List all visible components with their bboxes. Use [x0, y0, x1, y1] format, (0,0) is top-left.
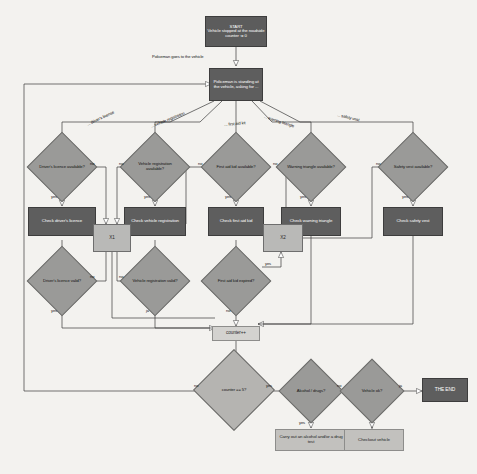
node-policeman[interactable]: Policeman is standing at the vehicle, as…	[209, 68, 263, 101]
decision-triangle-available-label: Warning triangle available?	[287, 165, 336, 170]
edge-label-no-licence-available: no	[90, 161, 94, 166]
decision-triangle-available[interactable]: Warning triangle available?	[286, 142, 336, 192]
edge-label-no-licence-valid: no	[90, 274, 94, 279]
process-check-firstaid-label: Check first aid kid	[220, 219, 253, 224]
edge-label-no-vehicle-ok: ja	[399, 383, 402, 388]
decision-vehicle-ok[interactable]: Vehicle ok?	[349, 368, 395, 414]
decision-registration-valid-label: Vehicle registration valid?	[131, 279, 180, 284]
edge-label-goes-to-vehicle: Policeman goes to the vehicle	[152, 54, 204, 59]
edge-label-no-alcohol: no	[337, 383, 341, 388]
decision-vehicle-ok-label: Vehicle ok?	[349, 389, 394, 394]
edge-label-yes-counter: yes	[266, 383, 272, 388]
edge-label-yes-alcohol: yes	[299, 420, 305, 425]
decision-registration-available[interactable]: Vehicle registration available?	[130, 142, 180, 192]
process-check-licence-label: Check driver's licence	[42, 219, 82, 224]
decision-counter-equals-5[interactable]: counter == 5?	[205, 361, 263, 419]
node-end[interactable]: THE END	[422, 378, 468, 402]
decision-licence-valid[interactable]: Driver's licence valid?	[37, 256, 87, 306]
edge-label-no-registration-valid: no	[119, 274, 123, 279]
edge-label-yes-vest-available: yes	[402, 194, 408, 199]
process-checkout-vehicle-label: Checkout vehicle	[358, 438, 390, 443]
process-counter-increment[interactable]: counter++	[212, 326, 260, 341]
process-check-registration[interactable]: Check vehicle registration	[124, 207, 186, 236]
edge-label-no-triangle-available: no	[273, 161, 277, 166]
node-start[interactable]: START Vehicle stopped at the roadside co…	[205, 16, 267, 47]
decision-firstaid-available[interactable]: First aid kid available?	[211, 142, 261, 192]
node-start-label: START Vehicle stopped at the roadside co…	[208, 25, 265, 39]
decision-licence-available[interactable]: Driver's licence available?	[37, 142, 87, 192]
decision-registration-valid[interactable]: Vehicle registration valid?	[130, 256, 180, 306]
edge-label-no-firstaid-available: no	[198, 161, 202, 166]
edge-label-ja-registration-valid: ja	[146, 308, 149, 313]
edge-label-yes-licence-available: yes	[51, 194, 57, 199]
decision-licence-available-label: Driver's licence available?	[38, 165, 87, 170]
process-checkout-vehicle[interactable]: Checkout vehicle	[344, 429, 404, 451]
process-drug-test-label: Carry out an alcohol and/or a drug test	[277, 435, 345, 445]
decision-registration-available-label: Vehicle registration available?	[131, 162, 180, 171]
edge-label-yes-registration-available: yes	[144, 194, 150, 199]
edge-label-no-firstaid-expired: no	[226, 308, 230, 313]
decision-firstaid-expired-label: First aid kid expired?	[212, 279, 261, 284]
edge-label-yes-triangle-available: yes	[300, 194, 306, 199]
process-drug-test[interactable]: Carry out an alcohol and/or a drug test	[275, 429, 347, 451]
edge-label-yes-firstaid-available: yes	[225, 194, 231, 199]
process-counter-increment-label: counter++	[226, 331, 246, 336]
decision-licence-valid-label: Driver's licence valid?	[38, 279, 87, 284]
decision-alcohol-drugs[interactable]: Alcohol / drugs?	[288, 368, 334, 414]
flowchart-canvas: START Vehicle stopped at the roadside co…	[0, 0, 477, 474]
node-policeman-label: Policeman is standing at the vehicle, as…	[211, 80, 261, 90]
process-check-firstaid[interactable]: Check first aid kid	[208, 207, 264, 236]
merge-x2-label: X2	[280, 236, 285, 241]
merge-x1[interactable]: X1	[93, 224, 131, 252]
edge-label-no-vest-available: no	[376, 161, 380, 166]
decision-counter-equals-5-label: counter == 5?	[206, 388, 263, 393]
edge-label-yes-licence-valid: yes	[51, 308, 57, 313]
node-end-label: THE END	[435, 387, 455, 392]
process-check-vest[interactable]: Check safety vest	[383, 207, 443, 236]
decision-vest-available-label: Safety vest available?	[389, 165, 438, 170]
process-check-licence[interactable]: Check driver's licence	[28, 207, 96, 236]
process-check-registration-label: Check vehicle registration	[131, 219, 179, 224]
edge-label-yes-firstaid-expired: yes	[265, 261, 271, 266]
edge-label-no-counter: no	[194, 383, 198, 388]
decision-firstaid-expired[interactable]: First aid kid expired?	[211, 256, 261, 306]
decision-firstaid-available-label: First aid kid available?	[212, 165, 261, 170]
edge-label-no-registration-available: no	[119, 161, 123, 166]
decision-alcohol-drugs-label: Alcohol / drugs?	[288, 389, 333, 394]
process-check-vest-label: Check safety vest	[397, 219, 430, 224]
decision-vest-available[interactable]: Safety vest available?	[388, 142, 438, 192]
merge-x1-label: X1	[109, 236, 114, 241]
merge-x2[interactable]: X2	[263, 224, 303, 252]
